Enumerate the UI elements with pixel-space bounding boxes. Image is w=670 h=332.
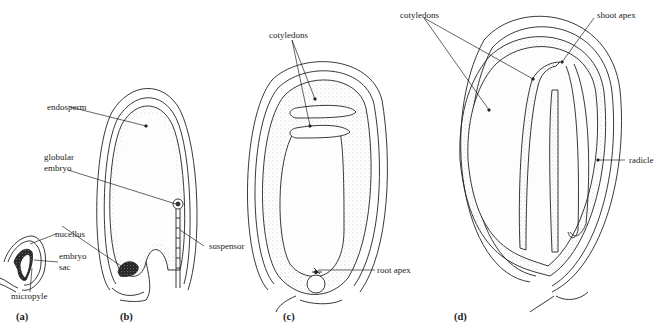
label-radicle: radicle [629,155,653,165]
label-nucellus: nucellus [55,229,85,239]
panel-a-ovule [0,236,46,292]
label-globular-embryo-line1: globular [44,152,74,162]
panel-label-b: (b) [120,311,133,322]
label-embryo-sac-line1: embryo [59,251,87,261]
label-cotyledons-d: cotyledons [400,10,439,20]
label-endosperm: endosperm [47,102,87,112]
panel-d-seed [460,16,622,312]
label-embryo-sac-line2: sac [59,262,71,272]
label-globular-embryo-line2: embryo [44,163,72,173]
panel-label-d: (d) [454,311,467,322]
label-root-apex: root apex [377,265,411,275]
label-shoot-apex: shoot apex [597,10,636,20]
label-cotyledons-c: cotyledons [269,30,308,40]
label-suspensor: suspensor [209,241,245,251]
panel-label-c: (c) [283,311,295,322]
panel-c-seed [247,62,387,312]
label-micropyle: micropyle [11,291,48,301]
embryo-development-diagram [0,0,670,332]
panel-label-a: (a) [16,311,28,322]
